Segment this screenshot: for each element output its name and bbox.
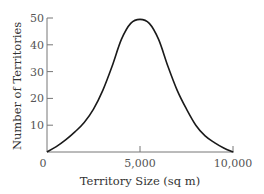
x-tick-label: 0 xyxy=(40,157,47,170)
y-axis-label: Number of Territories xyxy=(10,22,24,150)
y-tick-label: 10 xyxy=(30,119,44,132)
y-tick-label: 40 xyxy=(30,39,44,52)
x-ticks: 05,00010,000 xyxy=(40,146,253,170)
y-axis: 1020304050 xyxy=(30,12,53,152)
y-tick-label: 50 xyxy=(30,12,44,25)
territory-size-chart: 1020304050 05,00010,000 Territory Size (… xyxy=(0,0,264,194)
distribution-curve xyxy=(47,19,233,152)
y-tick-label: 20 xyxy=(30,92,44,105)
x-tick-label: 10,000 xyxy=(214,157,253,170)
x-tick-label: 5,000 xyxy=(124,157,156,170)
x-axis: 05,00010,000 xyxy=(40,146,253,170)
x-axis-label: Territory Size (sq m) xyxy=(80,174,200,188)
y-tick-label: 30 xyxy=(30,66,44,79)
y-ticks: 1020304050 xyxy=(30,12,53,132)
